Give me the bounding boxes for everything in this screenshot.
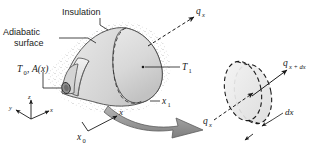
diagram-canvas: Insulation Adiabatic surface q x T 0 , A… [0, 0, 317, 152]
qx-element-label: q x [203, 116, 212, 128]
differential-element [219, 58, 277, 127]
x-axis-bottom-label: x [118, 107, 123, 117]
x1-label: x 1 [161, 96, 171, 108]
heat-conduction-diagram: Insulation Adiabatic surface q x T 0 , A… [0, 0, 317, 152]
x0-subscript: 0 [83, 137, 86, 144]
t0-comma: , [27, 64, 29, 74]
dx-arrow-right [245, 134, 253, 140]
t0-symbol: T [17, 64, 23, 74]
qx-plus-dx-label: q x + dx [283, 58, 306, 70]
qx-plus-dx-subscript: x + dx [288, 63, 306, 70]
x0-label: x 0 [76, 132, 86, 144]
qx-element-symbol: q [203, 116, 208, 126]
x-axis-label: x [49, 106, 53, 113]
area-function-label: A(x) [31, 64, 48, 75]
y-axis [16, 110, 31, 119]
qx-element-subscript: x [208, 121, 212, 128]
t1-label: T 1 [182, 62, 192, 74]
t0-label: T 0 , [17, 64, 29, 76]
qx-top-subscript: x [201, 11, 205, 18]
qx-top-symbol: q [196, 6, 201, 16]
x1-subscript: 1 [168, 101, 171, 108]
x0-tick [82, 122, 88, 131]
x0-symbol: x [76, 132, 82, 142]
adiabatic-label-line1: Adiabatic [3, 27, 41, 37]
z-axis-label: z [27, 93, 31, 100]
x1-symbol: x [161, 96, 167, 106]
dx-label: dx [285, 107, 294, 117]
x-axis-arrow [88, 116, 117, 131]
qx-plus-dx-symbol: q [283, 58, 288, 68]
t1-subscript: 1 [189, 67, 192, 74]
y-axis-label: y [8, 104, 12, 111]
adiabatic-label-line2: surface [14, 38, 44, 48]
qx-top-arrow [148, 17, 194, 46]
t1-symbol: T [182, 62, 188, 72]
x-axis [31, 111, 49, 119]
t1-point-marker [142, 66, 145, 69]
qx-top-label: q x [196, 6, 205, 18]
coordinate-axes [16, 100, 49, 119]
insulation-label: Insulation [62, 7, 101, 17]
dx-leader [272, 113, 283, 120]
